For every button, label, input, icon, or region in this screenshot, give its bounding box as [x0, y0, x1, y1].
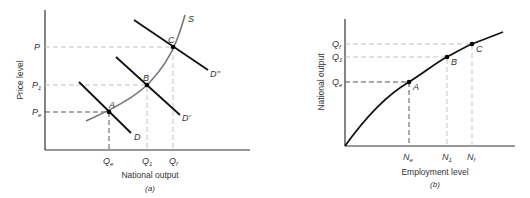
- y-tick-qf: Qf: [332, 39, 342, 50]
- demand-prime-label: D': [182, 113, 190, 123]
- point-a: [407, 80, 412, 85]
- point-a-label: A: [412, 82, 419, 92]
- y-tick-pe: Pe: [32, 107, 42, 118]
- point-a: [107, 110, 112, 115]
- x-tick-ne: Ne: [403, 152, 414, 163]
- demand-double-prime-label: D'': [210, 69, 220, 79]
- panel-a-x-axis-label: National output: [121, 170, 179, 180]
- x-tick-nf: Nf: [467, 152, 477, 163]
- demand-label: D: [134, 132, 141, 142]
- y-tick-p1: P1: [32, 80, 41, 91]
- point-b: [445, 55, 450, 60]
- point-c: [171, 45, 176, 50]
- x-tick-q1: Q1: [142, 156, 152, 167]
- panel-b-caption: (b): [430, 180, 440, 189]
- panel-a-y-axis-label: Price level: [15, 60, 25, 99]
- y-tick-qe: Qe: [332, 77, 343, 88]
- guide-q1-n1: [345, 57, 447, 146]
- panel-b: A B C Qf Q1 Qe Ne N1 Nf Employment level…: [316, 19, 515, 189]
- guide-pe-qe: [45, 112, 109, 150]
- guide-p1-q1: [45, 85, 147, 150]
- point-c-label: C: [476, 44, 483, 54]
- x-tick-qf: Qf: [169, 156, 179, 167]
- demand-curve-d-double-prime: [134, 20, 208, 70]
- point-b-label: B: [451, 57, 457, 67]
- y-tick-p: P: [34, 42, 40, 52]
- supply-label: S: [188, 14, 194, 24]
- panel-a-caption: (a): [145, 184, 155, 193]
- x-tick-qe: Qe: [103, 156, 114, 167]
- demand-curve-d: [79, 82, 131, 133]
- guide-qe-ne: [345, 82, 409, 146]
- point-b-label: B: [143, 73, 149, 83]
- point-c: [470, 42, 475, 47]
- panel-b-y-axis-label: National output: [316, 53, 326, 111]
- panel-a: A B C S D D' D'' P P1 Pe Qe Q1 Qf Nation…: [15, 10, 250, 193]
- point-b: [145, 83, 150, 88]
- point-c-label: C: [168, 35, 175, 45]
- panel-b-x-axis-label: Employment level: [401, 167, 468, 177]
- guide-p-qf: [45, 47, 173, 150]
- y-tick-q1: Q1: [332, 52, 342, 63]
- x-tick-n1: N1: [442, 152, 452, 163]
- economics-diagram: A B C S D D' D'' P P1 Pe Qe Q1 Qf Nation…: [0, 0, 530, 198]
- point-a-label: A: [108, 100, 115, 110]
